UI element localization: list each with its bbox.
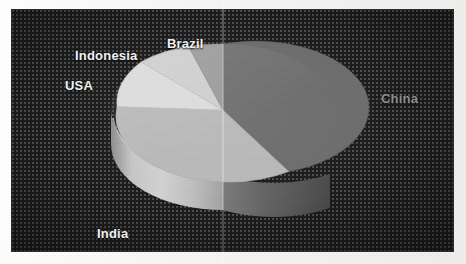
slice-label-china: China — [381, 91, 418, 106]
slice-label-brazil: Brazil — [167, 36, 204, 51]
slice-label-india: India — [97, 226, 128, 241]
chart-panel: Brazil Indonesia USA India China — [12, 10, 453, 251]
pie-top-sheen — [111, 44, 335, 176]
screenshot-root: Brazil Indonesia USA India China — [0, 0, 466, 264]
pie-chart-svg — [12, 10, 453, 251]
pie-top-face — [111, 41, 369, 182]
pie-chart — [12, 10, 453, 251]
slice-label-indonesia: Indonesia — [75, 48, 137, 63]
slice-label-usa: USA — [65, 78, 93, 93]
